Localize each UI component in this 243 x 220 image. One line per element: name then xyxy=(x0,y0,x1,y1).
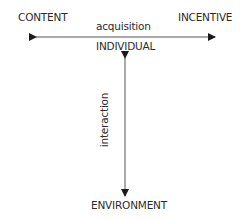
diagram-canvas xyxy=(0,0,243,220)
node-incentive: INCENTIVE xyxy=(178,11,232,23)
edge-label-acquisition: acquisition xyxy=(96,20,151,32)
node-content: CONTENT xyxy=(18,11,67,23)
node-environment: ENVIRONMENT xyxy=(91,199,167,211)
edge-label-interaction: interaction xyxy=(98,90,110,150)
node-individual: INDIVIDUAL xyxy=(96,40,155,52)
